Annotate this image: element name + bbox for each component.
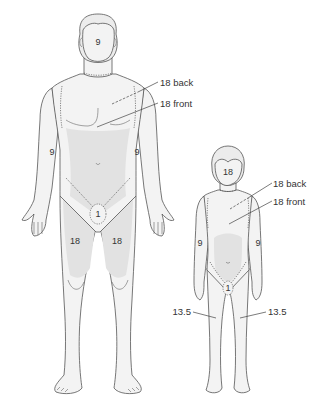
child-left-leg-label: 13.5 (268, 306, 287, 317)
adult-perineum-value: 1 (95, 209, 100, 219)
adult-head-value: 9 (95, 37, 100, 47)
adult-figure: 9 9 9 1 18 18 18 back 18 front (22, 14, 194, 394)
child-right-leg-label: 13.5 (173, 306, 192, 317)
adult-right-leg-value: 18 (70, 236, 80, 246)
adult-left-arm (22, 88, 58, 236)
adult-left-arm-value: 9 (134, 147, 139, 157)
adult-trunk-front-label: 18 front (160, 98, 193, 109)
child-figure: 18 9 9 1 18 back 18 front 13.5 13.5 (173, 146, 307, 393)
adult-right-arm-value: 9 (49, 147, 54, 157)
rule-of-nines-diagram: 9 9 9 1 18 18 18 back 18 front (0, 0, 316, 404)
adult-trunk-back-label: 18 back (160, 77, 194, 88)
child-left-arm-value: 9 (255, 238, 260, 248)
child-perineum-value: 1 (225, 283, 230, 293)
adult-left-leg-value: 18 (112, 236, 122, 246)
adult-right-arm (138, 88, 174, 236)
child-trunk-front-label: 18 front (273, 196, 306, 207)
child-head-value: 18 (223, 167, 233, 177)
child-right-arm-value: 9 (197, 238, 202, 248)
child-trunk-back-label: 18 back (273, 178, 307, 189)
